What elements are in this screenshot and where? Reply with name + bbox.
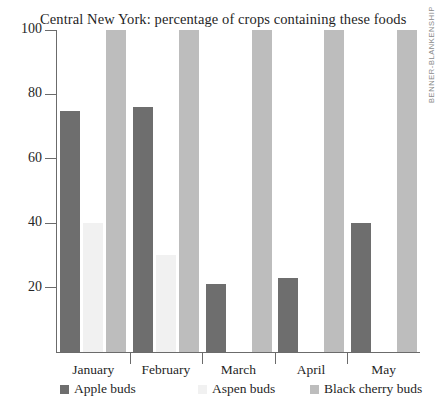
x-axis-label-april: April <box>275 362 348 378</box>
bar <box>156 255 176 352</box>
legend-swatch-icon <box>60 385 69 394</box>
y-axis-tick <box>45 30 57 31</box>
chart-title: Central New York: percentage of crops co… <box>40 11 385 28</box>
bar <box>351 223 371 352</box>
legend-label: Black cherry buds <box>324 381 422 397</box>
bar <box>60 111 80 353</box>
legend-swatch-icon <box>310 385 319 394</box>
chart-figure: Central New York: percentage of crops co… <box>0 0 437 408</box>
y-axis-tick-label: 100 <box>0 22 42 36</box>
bar <box>106 30 126 352</box>
bar <box>324 30 344 352</box>
bar <box>133 107 153 352</box>
credit-watermark: BENNER-BLANKENSHIP <box>427 6 436 103</box>
legend-label: Aspen buds <box>212 381 275 397</box>
y-axis-tick-label: 20 <box>0 280 42 294</box>
legend-item: Apple buds <box>60 381 136 397</box>
x-axis-line <box>56 352 420 353</box>
bar <box>397 30 417 352</box>
y-axis-tick <box>45 158 57 159</box>
x-axis-label-may: May <box>347 362 420 378</box>
legend-item: Black cherry buds <box>310 381 422 397</box>
legend-swatch-icon <box>198 385 207 394</box>
bar <box>206 284 226 352</box>
bar <box>83 223 103 352</box>
bar <box>278 278 298 352</box>
chart-legend: Apple budsAspen budsBlack cherry buds <box>0 381 437 403</box>
y-axis-tick-label: 60 <box>0 151 42 165</box>
y-axis-tick <box>45 94 57 95</box>
bar <box>179 30 199 352</box>
y-axis-tick-label: 40 <box>0 215 42 229</box>
x-axis-label-march: March <box>202 362 275 378</box>
y-axis-tick-label: 80 <box>0 86 42 100</box>
y-axis-tick <box>45 287 57 288</box>
legend-label: Apple buds <box>74 381 136 397</box>
plot-area <box>57 30 420 352</box>
y-axis-tick <box>45 223 57 224</box>
x-axis-label-february: February <box>130 362 203 378</box>
bar <box>252 30 272 352</box>
legend-item: Aspen buds <box>198 381 275 397</box>
x-axis-label-january: January <box>57 362 130 378</box>
